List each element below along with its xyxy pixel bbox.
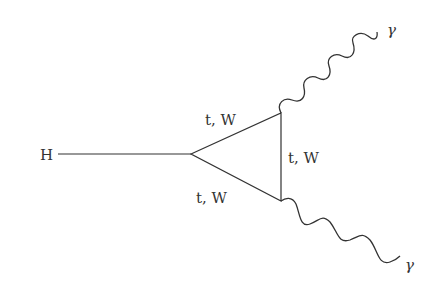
higgs-label: H bbox=[40, 146, 53, 164]
upper-photon-label: γ bbox=[387, 21, 396, 39]
lower-photon-label: γ bbox=[405, 256, 414, 274]
feynman-diagram: H t, W t, W t, W γ γ bbox=[0, 0, 442, 293]
loop-right-label: t, W bbox=[288, 149, 320, 167]
lower-photon-line bbox=[281, 198, 400, 262]
upper-photon-line bbox=[279, 32, 377, 113]
loop-lower-label: t, W bbox=[196, 189, 228, 207]
loop-upper-label: t, W bbox=[205, 111, 237, 129]
